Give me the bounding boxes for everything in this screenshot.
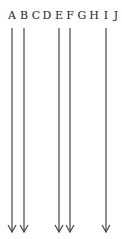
arrow-down-icon (102, 28, 110, 232)
arrow-down-icon (8, 28, 16, 232)
arrow-down-icon (66, 28, 74, 232)
arrow-down-icon (20, 28, 28, 232)
arrow-down-icon (55, 28, 63, 232)
arrows-layer (0, 0, 122, 239)
